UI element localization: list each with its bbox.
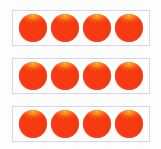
dot-icon (83, 14, 111, 42)
dot-row-label: Row 2 (80, 75, 81, 76)
dot-array-figure: Row 1 Row 2 Row 3 Dot Array (0, 0, 161, 149)
dot-icon (51, 14, 79, 42)
dot-icon (51, 110, 79, 138)
dot-icon (19, 110, 47, 138)
dot-row-label: Row 3 (80, 123, 81, 124)
dot-icon (115, 110, 143, 138)
dot-icon (51, 62, 79, 90)
dot-icon (19, 14, 47, 42)
dot-row: Row 2 (12, 58, 150, 94)
dot-icon (115, 62, 143, 90)
dot-row-label: Row 1 (80, 27, 81, 28)
dot-icon (19, 62, 47, 90)
dot-row: Row 3 (12, 106, 150, 142)
dot-row: Row 1 (12, 10, 150, 46)
dot-icon (83, 110, 111, 138)
dot-icon (115, 14, 143, 42)
dot-icon (83, 62, 111, 90)
